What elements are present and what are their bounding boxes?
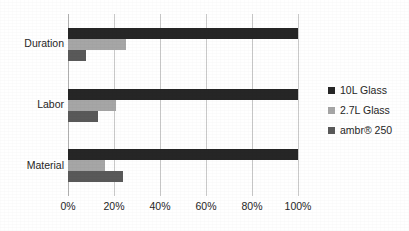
legend-item-2-7l-glass[interactable]: 2.7L Glass [328, 100, 406, 120]
x-axis-tick-40pct: 40% [149, 200, 170, 212]
y-axis-label-labor: Labor [4, 98, 64, 110]
x-axis-tick-0pct: 0% [60, 200, 75, 212]
x-axis-tick-100pct: 100% [285, 200, 312, 212]
plot-area [68, 14, 298, 196]
y-axis-label-material: Material [4, 159, 64, 171]
legend-item-10l-glass[interactable]: 10L Glass [328, 80, 406, 100]
bar-chart: DurationLaborMaterial 0%20%40%60%80%100%… [0, 0, 409, 231]
legend-item-ambr-250[interactable]: ambr® 250 [328, 120, 406, 140]
y-axis-label-duration: Duration [4, 37, 64, 49]
legend-label: 2.7L Glass [340, 104, 390, 116]
bar-group-material [68, 14, 298, 196]
chart-legend: 10L Glass2.7L Glassambr® 250 [328, 80, 406, 140]
legend-label: ambr® 250 [340, 124, 392, 136]
x-axis-tick-60pct: 60% [195, 200, 216, 212]
x-axis-tick-80pct: 80% [241, 200, 262, 212]
legend-swatch-27l-glass [328, 107, 335, 114]
gridline-100pct [298, 14, 299, 196]
bar-material-ambr-250 [68, 171, 123, 182]
legend-label: 10L Glass [340, 84, 387, 96]
x-axis-tick-20pct: 20% [103, 200, 124, 212]
legend-swatch-ambr-250 [328, 127, 335, 134]
bar-material-10l-glass [68, 149, 298, 160]
bar-material-2-7l-glass [68, 160, 105, 171]
x-axis-labels: 0%20%40%60%80%100% [68, 200, 298, 218]
legend-swatch-10l-glass [328, 87, 335, 94]
y-axis-labels: DurationLaborMaterial [4, 14, 64, 196]
